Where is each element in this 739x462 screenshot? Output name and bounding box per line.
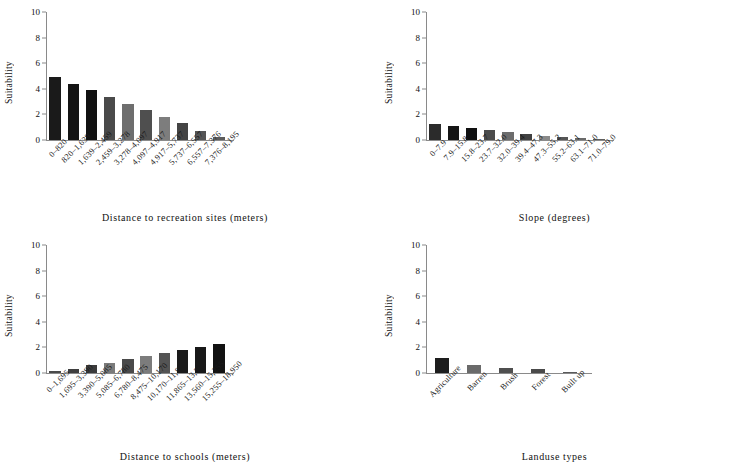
x-tick-slot: 55.2–63.1 <box>553 143 571 199</box>
bar-slot <box>535 12 553 140</box>
bar-slot <box>119 12 137 140</box>
bar[interactable] <box>49 77 60 140</box>
y-tick-label: 10 <box>31 241 40 250</box>
x-tick-slot: 15,255–18,950 <box>210 376 228 432</box>
bar-series <box>426 12 608 140</box>
x-tick-slot: Brush <box>490 376 522 432</box>
y-tick-label: 4 <box>36 317 41 326</box>
x-axis-title: Distance to recreation sites (meters) <box>0 212 370 223</box>
x-tick-slot: 5,085–6,780 <box>101 376 119 432</box>
bar-slot <box>210 12 228 140</box>
chart-panel-slope: Suitability02468100–7.97.9–15.815.8–23.7… <box>370 0 739 229</box>
bar-slot <box>590 12 608 140</box>
x-tick-slot: 0–1,695 <box>46 376 64 432</box>
x-tick-slot: 3,390–5,085 <box>82 376 100 432</box>
cropped-title-remnant <box>505 0 508 8</box>
bar-slot <box>572 12 590 140</box>
bar-series <box>46 12 228 140</box>
x-tick-slot: 3,278–4,097 <box>119 143 137 199</box>
y-tick-label: 0 <box>416 369 421 378</box>
bar-slot <box>101 12 119 140</box>
x-tick-slot: 8,475–10,170 <box>137 376 155 432</box>
bar-slot <box>155 12 173 140</box>
x-tick-slot: 6,557–7,376 <box>192 143 210 199</box>
bar-slot <box>119 245 137 373</box>
bar-slot <box>426 245 458 373</box>
bar-slot <box>137 245 155 373</box>
bar-slot <box>210 245 228 373</box>
bar[interactable] <box>68 84 79 140</box>
y-tick-label: 4 <box>36 84 41 93</box>
x-tick-labels: AgricultureBarrenBrushForestBuilt up <box>426 376 586 432</box>
bar-slot <box>46 12 64 140</box>
y-tick-label: 10 <box>411 8 420 17</box>
x-tick-slot: 15.8–23.7 <box>462 143 480 199</box>
bar[interactable] <box>448 126 459 140</box>
x-tick-slot: 47.3–55.2 <box>535 143 553 199</box>
bar-slot <box>64 12 82 140</box>
y-axis-label: Suitability <box>384 259 394 373</box>
x-tick-slot: 10,170–11,865 <box>155 376 173 432</box>
bar-slot <box>173 12 191 140</box>
x-tick-slot: 4,097–4,917 <box>137 143 155 199</box>
y-tick-label: 2 <box>36 343 41 352</box>
y-tick-label: 6 <box>416 59 421 68</box>
bar-slot <box>192 245 210 373</box>
x-tick-slot: 11,865–13,560 <box>173 376 191 432</box>
bar[interactable] <box>429 124 440 140</box>
y-tick-label: 4 <box>416 84 421 93</box>
x-tick-slot: Built up <box>554 376 586 432</box>
y-tick-label: 6 <box>36 292 41 301</box>
y-tick-label: 2 <box>416 343 421 352</box>
y-axis-label: Suitability <box>4 259 14 373</box>
bar-slot <box>553 12 571 140</box>
x-tick-labels: 0–1,6951,695–3,3903,390–5,0855,085–6,780… <box>46 376 228 432</box>
bar-slot <box>517 12 535 140</box>
y-tick-label: 0 <box>36 369 41 378</box>
x-tick-slot: 2,459–3,278 <box>101 143 119 199</box>
y-tick-label: 10 <box>411 241 420 250</box>
bar-slot <box>458 245 490 373</box>
bar-slot <box>173 245 191 373</box>
bar-slot <box>64 245 82 373</box>
y-tick-label: 0 <box>416 136 421 145</box>
x-tick-slot: Barren <box>458 376 490 432</box>
bar-slot <box>101 245 119 373</box>
bar-slot <box>155 245 173 373</box>
x-tick-slot: 7,376–8,195 <box>210 143 228 199</box>
x-tick-slot: 39.4–47.3 <box>517 143 535 199</box>
bar-series <box>426 245 586 373</box>
y-tick-label: 4 <box>416 317 421 326</box>
x-tick-labels: 0–7.97.9–15.815.8–23.723.7–32.032.0–39.4… <box>426 143 608 199</box>
x-tick-slot: 6,780–8,475 <box>119 376 137 432</box>
y-tick-label: 8 <box>36 33 41 42</box>
y-tick-label: 6 <box>416 292 421 301</box>
x-tick-slot: 0–820 <box>46 143 64 199</box>
x-tick-slot: 1,639–2,459 <box>82 143 100 199</box>
y-tick-label: 8 <box>416 266 421 275</box>
x-tick-slot: 0–7.9 <box>426 143 444 199</box>
y-tick-label: 2 <box>36 110 41 119</box>
y-tick-label: 0 <box>36 136 41 145</box>
bar-slot <box>522 245 554 373</box>
y-tick-label: 10 <box>31 8 40 17</box>
bar-slot <box>192 12 210 140</box>
bar-slot <box>82 12 100 140</box>
y-tick-label: 8 <box>416 33 421 42</box>
bar-slot <box>137 12 155 140</box>
bar-slot <box>426 12 444 140</box>
y-tick-label: 6 <box>36 59 41 68</box>
y-tick-label: 2 <box>416 110 421 119</box>
bar[interactable] <box>435 358 448 373</box>
x-axis-title: Landuse types <box>370 451 739 462</box>
bar-slot <box>499 12 517 140</box>
chart-panel-landuse: Suitability0246810AgricultureBarrenBrush… <box>370 229 739 459</box>
bar-series <box>46 245 228 373</box>
x-tick-slot: Forest <box>522 376 554 432</box>
x-tick-slot: 4,917–5,737 <box>155 143 173 199</box>
x-tick-slot: 23.7–32.0 <box>481 143 499 199</box>
x-tick-labels: 0–820820–1,6391,639–2,4592,459–3,2783,27… <box>46 143 228 199</box>
x-tick-slot: 7.9–15.8 <box>444 143 462 199</box>
x-tick-slot: Agriculture <box>426 376 458 432</box>
x-tick-slot: 1,695–3,390 <box>64 376 82 432</box>
